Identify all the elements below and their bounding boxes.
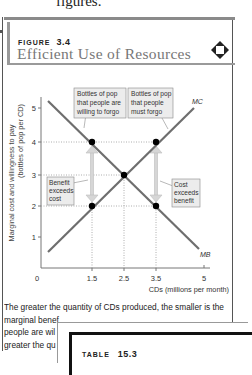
svg-text:willing to forgo: willing to forgo: [76, 108, 119, 116]
mb-label: MB: [200, 251, 211, 258]
margin-mark: [0, 30, 2, 33]
svg-text:must forgo: must forgo: [131, 108, 162, 116]
point-1-5-2: [89, 203, 95, 209]
x-tick-1-5: 1.5: [87, 274, 97, 283]
figure-title: Efficient Use of Resources: [17, 45, 191, 63]
x-tick-3-5: 3.5: [151, 274, 161, 283]
point-1-5-4: [89, 139, 95, 145]
x-tick-0: 0: [35, 274, 39, 283]
table-frame: TABLE15.3: [69, 332, 252, 375]
svg-text:Cost: Cost: [174, 181, 188, 188]
y-tick-2: 2: [32, 202, 36, 211]
y-tick-5: 5: [32, 104, 36, 113]
svg-text:benefit: benefit: [174, 197, 194, 204]
point-3-5-4: [153, 139, 159, 145]
table-label-text: TABLE: [82, 351, 110, 358]
svg-text:Bottles of pop: Bottles of pop: [131, 90, 172, 98]
preceding-text: figures.: [56, 0, 101, 10]
chart: 1 2 3 4 5 0 1.5 2.5 3.5 5 CDs (millions …: [0, 65, 235, 300]
x-axis-label: CDs (millions per month): [149, 285, 229, 294]
y-tick-4: 4: [32, 138, 36, 147]
svg-text:that people: that people: [131, 99, 164, 107]
x-tick-5: 5: [202, 274, 206, 283]
svg-text:exceeds: exceeds: [174, 189, 199, 196]
point-2-5-3: [121, 172, 127, 178]
point-3-5-2: [153, 203, 159, 209]
svg-text:exceeds: exceeds: [49, 187, 74, 194]
table-label: TABLE15.3: [82, 349, 137, 359]
y-tick-3: 3: [32, 171, 36, 180]
x-tick-2-5: 2.5: [119, 274, 129, 283]
svg-text:Benefit: Benefit: [49, 179, 70, 186]
figure-top-rule: [4, 17, 235, 20]
mc-label: MC: [192, 98, 204, 105]
svg-text:cost: cost: [49, 195, 61, 202]
svg-text:that people are: that people are: [77, 99, 121, 107]
y-tick-1: 1: [32, 233, 36, 242]
y-axis-label-line1: Marginal cost and willingness to pay: [7, 124, 16, 241]
y-axis-label-line2: (bottles of pop per CD): [16, 104, 25, 178]
table-number: 15.3: [118, 349, 138, 359]
diamond-icon: [211, 41, 229, 63]
svg-text:Bottles of pop: Bottles of pop: [77, 90, 118, 98]
caption-line: The greater the quantity of CDs produced…: [4, 301, 224, 314]
overlay-table-window[interactable]: TABLE15.3: [57, 322, 248, 363]
